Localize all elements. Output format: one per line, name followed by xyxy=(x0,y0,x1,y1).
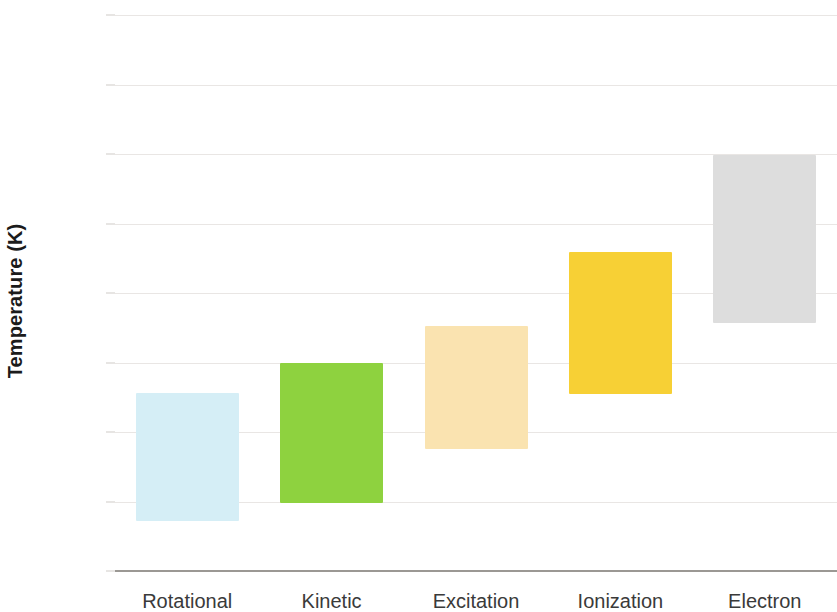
gridline xyxy=(115,85,837,86)
y-axis-tick xyxy=(106,84,115,85)
y-axis-tick xyxy=(106,223,115,224)
y-axis-tick xyxy=(106,432,115,433)
bar-ionization[interactable] xyxy=(569,252,672,394)
x-axis-label-electron: Electron xyxy=(728,590,801,612)
y-axis-tick xyxy=(106,501,115,502)
x-axis-label-excitation: Excitation xyxy=(433,590,520,612)
gridline xyxy=(115,15,837,16)
x-axis-label-ionization: Ionization xyxy=(578,590,664,612)
y-axis-tick xyxy=(106,293,115,294)
bar-electron[interactable] xyxy=(713,155,816,323)
bar-kinetic[interactable] xyxy=(280,363,383,503)
bar-rotational[interactable] xyxy=(136,393,239,521)
y-axis-tick xyxy=(106,362,115,363)
x-axis-label-rotational: Rotational xyxy=(142,590,232,612)
plot-area: 02,0004,0006,0008,00010,00012,00014,0001… xyxy=(115,15,837,571)
bar-excitation[interactable] xyxy=(425,326,528,449)
y-axis-tick xyxy=(106,154,115,155)
x-axis-baseline xyxy=(115,570,837,572)
y-axis-tick xyxy=(106,571,115,572)
y-axis-tick xyxy=(106,15,115,16)
y-axis-title: Temperature (K) xyxy=(0,0,30,602)
x-axis-label-kinetic: Kinetic xyxy=(302,590,362,612)
